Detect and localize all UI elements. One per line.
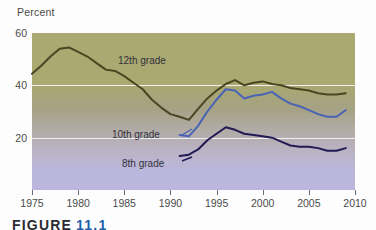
- x-tick-label-2005: 2005: [297, 197, 320, 209]
- x-tick-mark-2005: [309, 190, 310, 195]
- figure-caption: FIGURE11.1: [12, 217, 107, 230]
- leader-grade8: [182, 157, 192, 161]
- x-tick-mark-1980: [78, 190, 79, 195]
- x-tick-label-1975: 1975: [20, 197, 43, 209]
- series-line-10th-grade: [180, 89, 346, 136]
- y-tick-label-20: 20: [15, 132, 27, 144]
- x-tick-mark-1975: [32, 190, 33, 195]
- x-tick-mark-1990: [170, 190, 171, 195]
- caption-word: FIGURE: [12, 217, 72, 230]
- y-axis-title: Percent: [17, 6, 55, 18]
- x-tick-label-2010: 2010: [343, 197, 366, 209]
- x-tick-label-1995: 1995: [205, 197, 228, 209]
- x-tick-label-1980: 1980: [66, 197, 89, 209]
- x-tick-label-1990: 1990: [159, 197, 182, 209]
- series-line-8th-grade: [180, 127, 346, 156]
- y-tick-label-60: 60: [15, 27, 27, 39]
- x-tick-mark-1985: [124, 190, 125, 195]
- series-label-grade12: 12th grade: [118, 55, 166, 66]
- x-tick-label-2000: 2000: [251, 197, 274, 209]
- x-tick-label-1985: 1985: [113, 197, 136, 209]
- series-lines: [32, 33, 355, 190]
- y-tick-label-40: 40: [15, 79, 27, 91]
- series-label-grade8: 8th grade: [122, 158, 164, 169]
- x-tick-mark-2010: [355, 190, 356, 195]
- figure-root: Percent 204060 1975198019851990199520002…: [0, 0, 376, 230]
- series-line-12th-grade: [32, 47, 346, 119]
- series-label-grade10: 10th grade: [112, 129, 160, 140]
- x-tick-mark-2000: [263, 190, 264, 195]
- caption-number: 11.1: [76, 217, 107, 230]
- x-tick-mark-1995: [217, 190, 218, 195]
